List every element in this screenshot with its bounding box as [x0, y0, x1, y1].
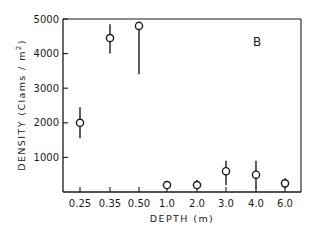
x-tick-label: 0.25	[69, 198, 91, 209]
y-tick-label: 5000	[34, 14, 59, 25]
data-point	[135, 22, 142, 74]
open-circle-marker	[281, 180, 288, 187]
open-circle-marker	[222, 168, 229, 175]
x-tick-label: 6.0	[277, 198, 293, 209]
data-point	[76, 107, 83, 138]
panel-label: B	[253, 35, 261, 49]
x-axis-title: DEPTH (m)	[150, 213, 214, 224]
y-axis-title-main: DENSITY (Clams / m	[16, 50, 27, 171]
x-tick-label: 0.35	[99, 198, 121, 209]
y-tick-label: 3000	[34, 83, 59, 94]
x-tick-label: 1.0	[159, 198, 175, 209]
open-circle-marker	[252, 171, 259, 178]
y-axis-title: DENSITY (Clams / m2)	[15, 39, 27, 171]
open-circle-marker	[163, 181, 170, 188]
data-point	[222, 161, 229, 185]
y-tick-label: 1000	[34, 152, 59, 163]
data-point	[163, 181, 170, 188]
plot-frame	[63, 19, 301, 192]
y-tick-label: 2000	[34, 117, 59, 128]
open-circle-marker	[76, 119, 83, 126]
x-tick-label: 2.0	[189, 198, 205, 209]
x-tick-label: 0.50	[128, 198, 150, 209]
data-point	[106, 24, 113, 53]
open-circle-marker	[106, 34, 113, 41]
open-circle-marker	[135, 22, 142, 29]
data-point	[193, 180, 200, 189]
x-tick-label: 3.0	[218, 198, 234, 209]
data-point	[281, 178, 288, 188]
open-circle-marker	[193, 181, 200, 188]
x-axis: 0.250.350.501.02.03.04.06.0	[69, 187, 293, 209]
x-tick-label: 4.0	[248, 198, 264, 209]
y-tick-label: 4000	[34, 48, 59, 59]
data-point	[252, 161, 259, 189]
density-depth-chart: 10002000300040005000 0.250.350.501.02.03…	[0, 0, 314, 241]
y-axis-title-close: )	[16, 39, 27, 44]
